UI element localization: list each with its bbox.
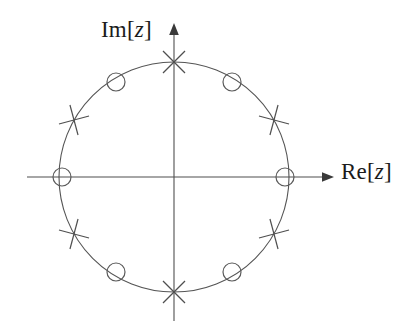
real-axis: [27, 172, 334, 182]
imaginary-axis-label-var: z: [135, 17, 144, 42]
pole-marker: [259, 105, 289, 135]
real-axis-arrowhead: [322, 172, 334, 182]
pole-marker: [59, 219, 89, 249]
real-axis-label-prefix: Re[: [341, 159, 375, 184]
pole-marker: [59, 105, 89, 135]
real-axis-label-suffix: ]: [384, 159, 392, 184]
imaginary-axis: [169, 23, 179, 321]
real-axis-label-var: z: [375, 159, 384, 184]
pole-marker: [259, 219, 289, 249]
real-axis-label: Re[z]: [341, 160, 392, 183]
imaginary-axis-label-prefix: Im[: [101, 17, 135, 42]
imaginary-axis-label: Im[z]: [101, 18, 152, 41]
imaginary-axis-label-suffix: ]: [144, 17, 152, 42]
imaginary-axis-arrowhead: [169, 23, 179, 35]
pole-zero-plot: Im[z] Re[z]: [0, 0, 407, 334]
